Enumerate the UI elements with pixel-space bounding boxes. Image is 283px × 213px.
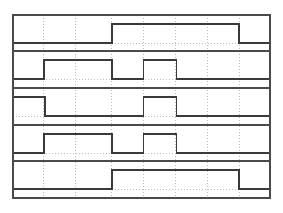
waveform-canvas — [0, 0, 283, 213]
timing-diagram-figure — [0, 0, 283, 213]
figure-background — [0, 0, 283, 213]
